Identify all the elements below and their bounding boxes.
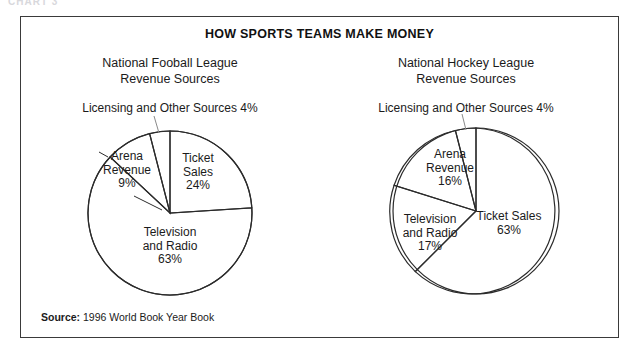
pie-nhl-ticket-l1: Ticket Sales: [477, 209, 542, 223]
pie-nfl-arena-name-l1: Arena: [111, 149, 143, 163]
panel-nfl-heading: National Fooball League Revenue Sources: [25, 55, 315, 87]
panel-nhl-licensing-callout: Licensing and Other Sources 4%: [321, 101, 611, 115]
pie-nfl-arena-pct: 9%: [118, 176, 135, 190]
pie-nhl-tv-l2: and Radio: [403, 226, 458, 240]
pie-nfl-ticket-l2: Sales: [183, 165, 213, 179]
pie-nfl-label-arena-revenue: Arena Revenue 9%: [96, 150, 158, 191]
pie-nhl-label-ticket-sales: Ticket Sales 63%: [466, 210, 552, 237]
pie-nfl-ticket-l1: Ticket: [182, 151, 214, 165]
pie-nfl-ticket-pct: 24%: [186, 178, 210, 192]
pie-nfl-label-ticket-sales: Ticket Sales 24%: [168, 152, 228, 193]
panel-nhl-heading: National Hockey League Revenue Sources: [321, 55, 611, 87]
source-label: Source:: [41, 311, 80, 323]
source-text: 1996 World Book Year Book: [83, 311, 214, 323]
page-title: HOW SPORTS TEAMS MAKE MONEY: [21, 27, 618, 41]
pie-nhl-arena-name-l1: Arena: [434, 147, 466, 161]
panel-nfl-heading-line1: National Fooball League: [102, 56, 238, 70]
pie-nhl-label-arena-revenue: Arena Revenue 16%: [414, 148, 486, 189]
panel-nhl-heading-line2: Revenue Sources: [321, 71, 611, 87]
pie-nfl-tv-pct: 63%: [158, 252, 182, 266]
pie-nhl-tv-pct: 17%: [418, 239, 442, 253]
pie-nfl-label-television-radio: Television and Radio 63%: [118, 226, 222, 267]
pie-nhl-ticket-pct: 63%: [497, 223, 521, 237]
panel-nfl-heading-line2: Revenue Sources: [25, 71, 315, 87]
pie-nhl-arena-name-l2: Revenue: [426, 161, 474, 175]
pie-nfl-tv-l1: Television: [144, 225, 197, 239]
pie-nhl-tv-l1: Television: [404, 212, 457, 226]
panel-nfl: National Fooball League Revenue Sources …: [25, 55, 315, 115]
pie-nhl-label-television-radio: Television and Radio 17%: [391, 213, 469, 254]
pie-nfl-arena-name-l2: Revenue: [103, 163, 151, 177]
panel-nhl: National Hockey League Revenue Sources L…: [321, 55, 611, 115]
cropped-header-artifact: CHART 3: [8, 0, 58, 7]
pie-nfl-tv-l2: and Radio: [143, 239, 198, 253]
panel-nfl-licensing-callout: Licensing and Other Sources 4%: [25, 101, 315, 115]
source-line: Source: 1996 World Book Year Book: [41, 311, 214, 323]
panel-nhl-heading-line1: National Hockey League: [398, 56, 534, 70]
pie-nhl-arena-pct: 16%: [438, 174, 462, 188]
